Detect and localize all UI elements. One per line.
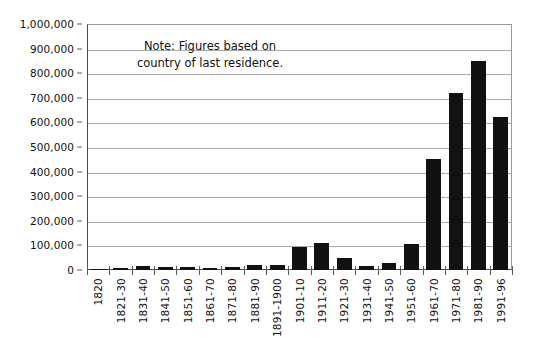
x-axis-tick-label: 1911-20: [316, 278, 328, 323]
x-axis-tick-label: 1841-50: [159, 278, 171, 323]
x-axis-tick-mark: [423, 266, 424, 275]
y-axis-tick-mark: [77, 24, 82, 25]
x-axis-tick-label: 1881-90: [249, 278, 261, 323]
y-axis-tick-mark: [77, 147, 82, 148]
bar: [337, 258, 352, 270]
bar: [426, 159, 441, 270]
x-axis-tick-mark: [378, 266, 379, 275]
y-axis-tick-label: 100,000: [30, 239, 74, 251]
y-axis-tick-label: 500,000: [30, 141, 74, 153]
chart-note-annotation: Note: Figures based on country of last r…: [112, 38, 308, 71]
x-axis-tick-mark: [244, 266, 245, 275]
y-axis-tick-mark: [77, 73, 82, 74]
x-axis-tick-label: 1901-10: [294, 278, 306, 323]
y-axis-tick-label: 0: [67, 264, 74, 276]
x-axis-tick-label: 1821-30: [115, 278, 127, 323]
x-axis-tick-label: 1981-90: [472, 278, 484, 323]
y-axis-tick-label: 900,000: [30, 43, 74, 55]
x-axis-tick-label: 1941-50: [383, 278, 395, 323]
x-axis-tick-mark: [109, 266, 110, 275]
y-axis-tick-mark: [77, 245, 82, 246]
bar: [471, 61, 486, 270]
bar: [382, 263, 397, 270]
x-axis-tick-mark: [467, 266, 468, 275]
y-axis-tick-label: 400,000: [30, 166, 74, 178]
x-axis-tick-mark: [311, 266, 312, 275]
chart-note-line-2: country of last residence.: [112, 55, 308, 72]
x-axis-tick-label: 1831-40: [137, 278, 149, 323]
x-axis-tick-mark: [490, 266, 491, 275]
y-axis-tick-mark: [77, 122, 82, 123]
x-axis-tick-mark: [400, 266, 401, 275]
x-axis-tick-label: 1851-60: [182, 278, 194, 323]
y-axis-tick-label: 800,000: [30, 67, 74, 79]
y-axis-tick-label: 300,000: [30, 190, 74, 202]
x-axis-tick-label: 1991-96: [495, 278, 507, 323]
bar: [493, 117, 508, 270]
y-axis-tick-mark: [77, 220, 82, 221]
x-axis-tick-mark: [512, 266, 513, 275]
x-axis-tick-label: 1921-30: [338, 278, 350, 323]
x-axis-tick-mark: [221, 266, 222, 275]
x-axis-tick-mark: [132, 266, 133, 275]
y-axis-tick-label: 600,000: [30, 116, 74, 128]
x-axis-tick-label: 1871-80: [226, 278, 238, 323]
y-axis-tick-label: 700,000: [30, 92, 74, 104]
x-axis-tick-mark: [333, 266, 334, 275]
x-axis-tick-mark: [87, 266, 88, 275]
x-axis-tick-mark: [176, 266, 177, 275]
y-axis-tick-mark: [77, 196, 82, 197]
immigration-bar-chart: 0100,000200,000300,000400,000500,000600,…: [0, 0, 540, 356]
y-axis: 0100,000200,000300,000400,000500,000600,…: [0, 24, 82, 270]
x-axis-tick-mark: [288, 266, 289, 275]
x-axis-tick-label: 1861-70: [204, 278, 216, 323]
x-axis-tick-label: 1891-1900: [271, 278, 283, 337]
y-axis-tick-mark: [77, 171, 82, 172]
bar: [449, 93, 464, 270]
bar: [314, 243, 329, 270]
y-axis-tick-mark: [77, 270, 82, 271]
y-axis-tick-label: 1,000,000: [20, 18, 74, 30]
chart-note-line-1: Note: Figures based on: [112, 38, 308, 55]
x-axis-tick-mark: [154, 266, 155, 275]
x-axis-tick-label: 1961-70: [428, 278, 440, 323]
y-axis-tick-label: 200,000: [30, 215, 74, 227]
y-axis-tick-mark: [77, 48, 82, 49]
x-axis-tick-label: 1820: [92, 278, 104, 306]
bar: [292, 247, 307, 270]
x-axis-tick-mark: [445, 266, 446, 275]
x-axis: 18201821-301831-401841-501851-601861-701…: [87, 270, 512, 356]
x-axis-tick-mark: [266, 266, 267, 275]
bar: [404, 244, 419, 270]
y-axis-tick-mark: [77, 97, 82, 98]
x-axis-tick-label: 1951-60: [405, 278, 417, 323]
x-axis-tick-label: 1971-80: [450, 278, 462, 323]
x-axis-tick-mark: [199, 266, 200, 275]
x-axis-tick-label: 1931-40: [361, 278, 373, 323]
x-axis-tick-mark: [355, 266, 356, 275]
